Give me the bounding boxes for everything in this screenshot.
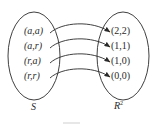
domain-element: (r,r) bbox=[24, 70, 40, 81]
domain-element: (a,r) bbox=[24, 40, 42, 51]
codomain-element: (2,2) bbox=[111, 25, 130, 36]
set-r2-label: R2 bbox=[114, 100, 123, 111]
set-r2-label-exponent: 2 bbox=[120, 100, 123, 106]
codomain-element: (1,0) bbox=[111, 55, 130, 66]
domain-element: (r,a) bbox=[24, 55, 41, 66]
domain-element: (a,a) bbox=[24, 25, 43, 36]
codomain-element: (0,0) bbox=[111, 70, 130, 81]
codomain-element: (1,1) bbox=[111, 40, 130, 51]
set-s-label: S bbox=[31, 101, 36, 112]
